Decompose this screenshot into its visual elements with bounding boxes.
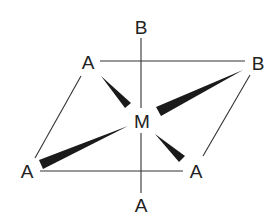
ligand-label-lower-right: A	[190, 161, 203, 182]
octahedral-complex-diagram: B A B M A A A	[0, 0, 276, 214]
ligand-label-lower-left: A	[21, 161, 34, 182]
ligand-label-upper-right: B	[252, 53, 265, 74]
wedge-bond-lower-right	[155, 134, 185, 162]
wedge-bond-lower-left	[39, 126, 128, 169]
left-edge-line	[35, 76, 81, 158]
metal-center-label: M	[134, 111, 150, 132]
ligand-label-bottom: A	[135, 195, 148, 214]
ligand-label-upper-left: A	[82, 52, 95, 73]
wedge-bond-upper-left	[101, 76, 131, 108]
ligand-label-top: B	[135, 17, 148, 38]
